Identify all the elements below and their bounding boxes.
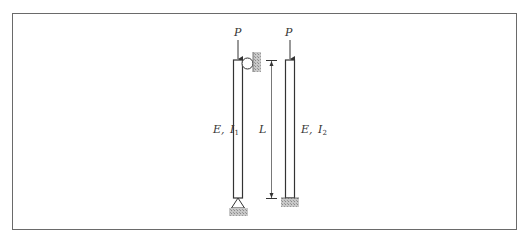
- column-right: [286, 60, 295, 198]
- wall-support-icon: [253, 52, 261, 72]
- load-label-right: P: [284, 26, 293, 39]
- length-dimension: L: [258, 61, 277, 199]
- load-label-left: P: [233, 26, 242, 39]
- right-column: P E, I2: [281, 26, 327, 207]
- length-label: L: [258, 123, 266, 136]
- roller-icon: [242, 58, 253, 69]
- pin-support-icon: [232, 198, 245, 208]
- property-label-right: E, I2: [300, 123, 327, 137]
- fixed-support-icon: [281, 198, 299, 207]
- ground-hatch-left-icon: [229, 208, 248, 216]
- left-column: P E, I1: [212, 26, 261, 216]
- dimension-arrow-bottom-icon: [270, 193, 274, 198]
- column-diagram: P E, I1 L P E, I2: [0, 0, 527, 242]
- dimension-arrow-top-icon: [270, 61, 274, 66]
